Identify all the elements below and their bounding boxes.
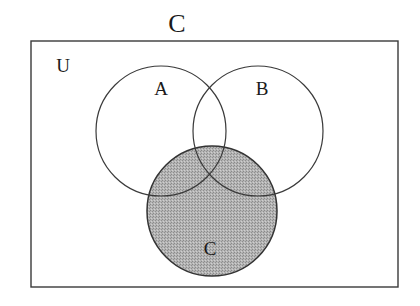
set-b-label: B (256, 78, 269, 99)
venn-diagram: C U A B C (0, 0, 420, 306)
set-a-label: A (154, 78, 168, 99)
diagram-title: C (168, 9, 185, 38)
set-c-label: C (204, 238, 217, 259)
universe-label: U (56, 55, 70, 76)
